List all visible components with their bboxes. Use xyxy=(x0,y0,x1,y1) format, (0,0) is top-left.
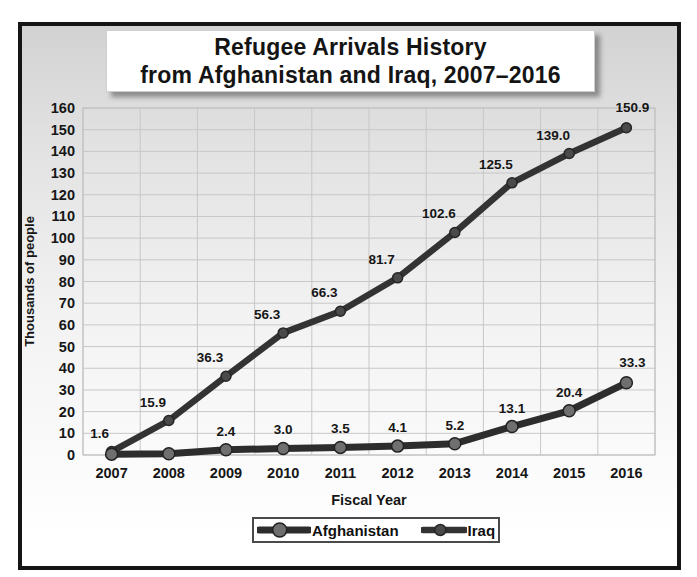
svg-text:100: 100 xyxy=(51,230,75,246)
svg-text:2012: 2012 xyxy=(381,465,413,481)
legend-item-iraq: Iraq xyxy=(421,522,496,539)
data-label: 125.5 xyxy=(479,157,513,172)
afghanistan-line-marker-icon xyxy=(257,521,311,539)
svg-text:40: 40 xyxy=(59,360,75,376)
chart-title-line1: Refugee Arrivals History xyxy=(214,33,486,61)
svg-text:20: 20 xyxy=(59,404,75,420)
svg-text:120: 120 xyxy=(51,187,75,203)
data-label: 56.3 xyxy=(254,307,281,322)
line-chart: 0102030405060708090100110120130140150160… xyxy=(22,26,677,566)
svg-text:2008: 2008 xyxy=(153,465,185,481)
data-label: 139.0 xyxy=(536,128,570,143)
data-label: 36.3 xyxy=(197,350,224,365)
data-label: 150.9 xyxy=(616,100,650,115)
y-axis-tick-labels: 0102030405060708090100110120130140150160 xyxy=(51,100,75,463)
chart-figure: Refugee Arrivals History from Afghanista… xyxy=(0,0,697,577)
data-label: 81.7 xyxy=(368,252,394,267)
chart-frame: Refugee Arrivals History from Afghanista… xyxy=(18,22,681,570)
svg-text:2009: 2009 xyxy=(210,465,242,481)
svg-text:140: 140 xyxy=(51,143,75,159)
legend-label-iraq: Iraq xyxy=(468,522,496,539)
svg-text:70: 70 xyxy=(59,295,75,311)
svg-text:2010: 2010 xyxy=(267,465,299,481)
y-axis-title: Thousands of people xyxy=(22,216,37,347)
svg-text:0: 0 xyxy=(67,447,75,463)
svg-text:50: 50 xyxy=(59,339,75,355)
svg-text:30: 30 xyxy=(59,382,75,398)
svg-text:10: 10 xyxy=(59,425,75,441)
svg-text:2013: 2013 xyxy=(439,465,471,481)
data-label: 1.6 xyxy=(90,426,109,441)
data-label: 3.0 xyxy=(274,422,293,437)
chart-title-line2: from Afghanistan and Iraq, 2007–2016 xyxy=(140,61,561,89)
x-axis-tick-labels: 2007200820092010201120122013201420152016 xyxy=(95,465,642,481)
series-afghanistan-labels: 2.43.03.54.15.213.120.433.3 xyxy=(217,355,646,439)
data-label: 2.4 xyxy=(217,424,236,439)
x-axis-title-group: Fiscal Year xyxy=(331,492,407,508)
chart-legend: Afghanistan Iraq xyxy=(252,517,500,543)
data-label: 15.9 xyxy=(140,395,166,410)
chart-title: Refugee Arrivals History from Afghanista… xyxy=(106,30,595,92)
svg-text:90: 90 xyxy=(59,252,75,268)
data-label: 66.3 xyxy=(311,285,338,300)
data-label: 4.1 xyxy=(388,420,407,435)
svg-text:60: 60 xyxy=(59,317,75,333)
svg-text:2015: 2015 xyxy=(553,465,585,481)
data-label: 13.1 xyxy=(499,401,526,416)
svg-text:110: 110 xyxy=(52,208,75,224)
data-label: 5.2 xyxy=(445,418,464,433)
y-axis-title-group: Thousands of people xyxy=(22,216,37,347)
x-axis-title: Fiscal Year xyxy=(331,492,407,508)
legend-label-afghanistan: Afghanistan xyxy=(312,522,399,539)
svg-text:2016: 2016 xyxy=(610,465,642,481)
svg-text:150: 150 xyxy=(51,122,75,138)
iraq-line-marker-icon xyxy=(421,522,467,538)
svg-text:160: 160 xyxy=(51,100,75,116)
svg-text:130: 130 xyxy=(51,165,75,181)
svg-text:80: 80 xyxy=(59,274,75,290)
svg-text:2007: 2007 xyxy=(95,465,127,481)
data-label: 102.6 xyxy=(422,206,456,221)
svg-text:2014: 2014 xyxy=(496,465,528,481)
svg-text:2011: 2011 xyxy=(325,465,356,481)
legend-item-afghanistan: Afghanistan xyxy=(257,521,399,539)
data-label: 3.5 xyxy=(331,421,350,436)
data-label: 33.3 xyxy=(619,355,646,370)
data-label: 20.4 xyxy=(556,385,583,400)
